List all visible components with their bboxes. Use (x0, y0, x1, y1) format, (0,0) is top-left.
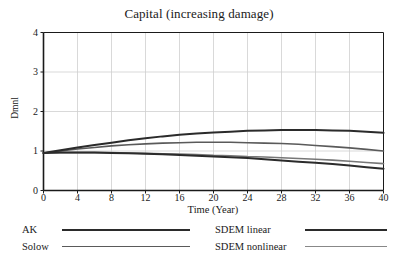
legend-swatch-line (62, 229, 190, 231)
x-axis-label: Time (Year) (43, 204, 383, 215)
legend-item-sdem-nonlinear[interactable]: SDEM nonlinear (215, 239, 390, 254)
legend-label: SDEM linear (215, 224, 299, 235)
legend-label: Solow (22, 241, 56, 252)
legend-swatch-line (62, 246, 190, 247)
legend-item-solow[interactable]: Solow (22, 239, 190, 254)
legend-item-ak[interactable]: AK (22, 222, 190, 237)
legend-item-sdem-linear[interactable]: SDEM linear (215, 222, 390, 237)
legend-swatch-line (305, 229, 387, 231)
legend-swatch-line (305, 246, 387, 247)
legend-label: SDEM nonlinear (215, 241, 299, 252)
chart-legend: AKSolowSDEM linearSDEM nonlinear (0, 219, 398, 259)
legend-label: AK (22, 224, 56, 235)
chart-figure: Capital (increasing damage) Dmnl 01234 0… (0, 0, 398, 259)
